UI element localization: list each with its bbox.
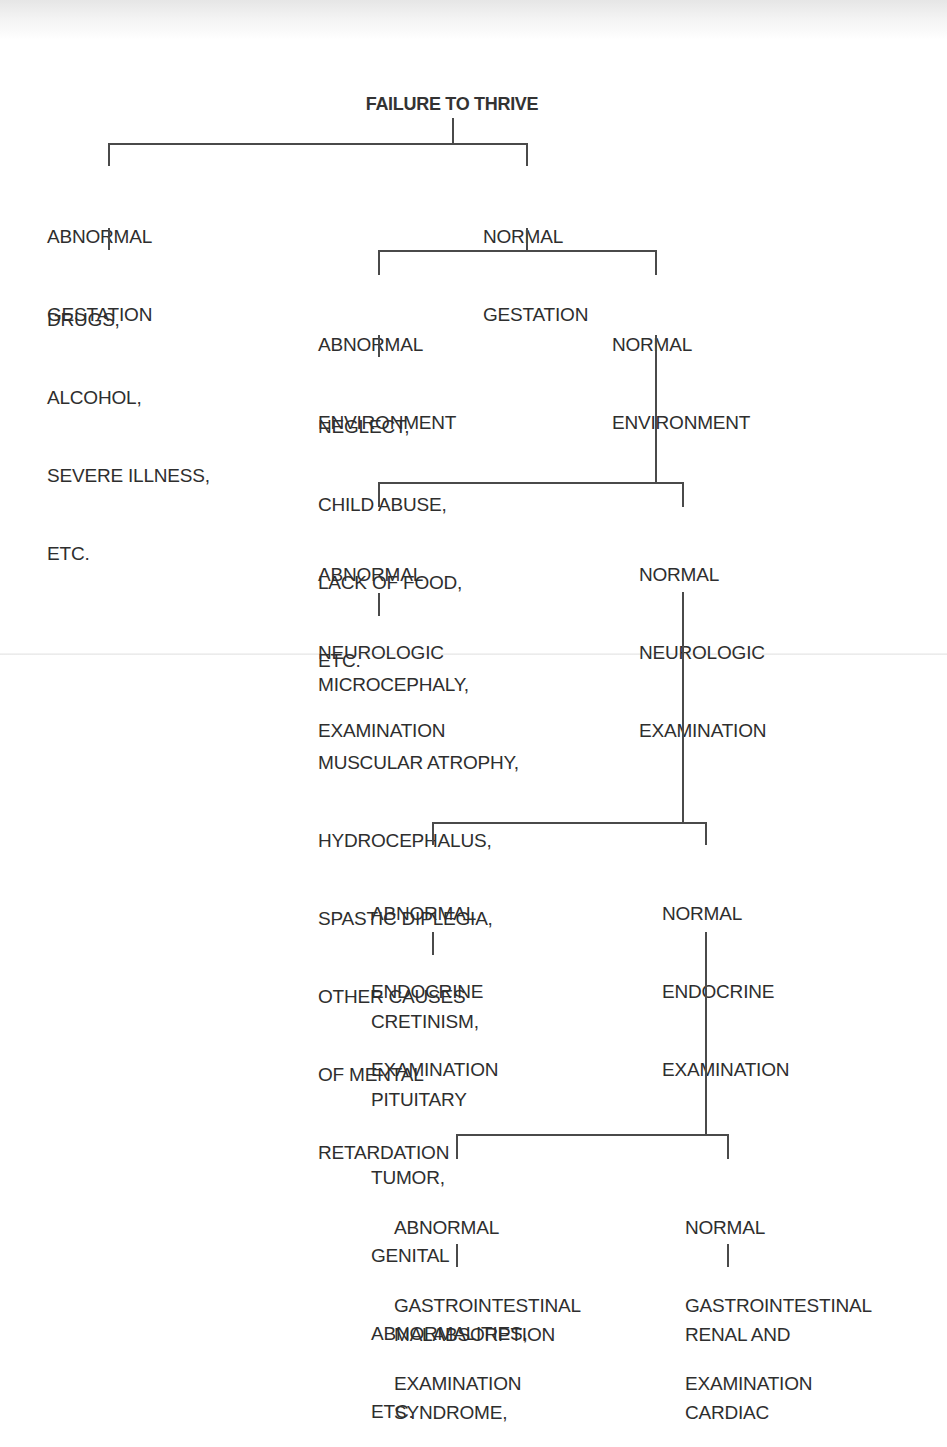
cause-line: MALABSORPTION xyxy=(394,1322,555,1348)
connector xyxy=(727,1134,729,1159)
connector xyxy=(378,482,380,507)
connector xyxy=(108,228,110,250)
node-normal-environment: NORMAL ENVIRONMENT xyxy=(612,280,750,462)
node-label-line: GESTATION xyxy=(483,302,588,328)
cause-line: ALCOHOL, xyxy=(47,385,210,411)
node-normal-endocrine: NORMAL ENDOCRINE EXAMINATION xyxy=(662,849,789,1109)
node-label-line: ENDOCRINE xyxy=(662,979,789,1005)
connector xyxy=(432,822,706,824)
connector xyxy=(655,335,657,482)
cause-line: CRETINISM, xyxy=(371,1009,528,1035)
node-label-line: ENVIRONMENT xyxy=(612,410,750,436)
cause-line: RENAL AND xyxy=(685,1322,790,1348)
causes-abnormal-gestation: DRUGS, ALCOHOL, SEVERE ILLNESS, ETC. xyxy=(47,255,210,593)
connector xyxy=(456,1134,728,1136)
connector xyxy=(456,1134,458,1159)
cause-line: CARDIAC xyxy=(685,1400,790,1426)
diagram-title: FAILURE TO THRIVE xyxy=(0,94,904,115)
cause-line: MUSCULAR ATROPHY, xyxy=(318,750,519,776)
connector xyxy=(456,1244,458,1267)
connector xyxy=(705,822,707,845)
cause-line: DRUGS, xyxy=(47,307,210,333)
scan-shading xyxy=(0,0,947,40)
cause-line: SYNDROME, xyxy=(394,1400,555,1426)
connector xyxy=(378,482,683,484)
connector xyxy=(432,822,434,845)
connector xyxy=(378,593,380,616)
connector xyxy=(526,228,528,250)
cause-line: PITUITARY xyxy=(371,1087,528,1113)
node-label-line: ABNORMAL xyxy=(394,1215,581,1241)
node-label-line: NORMAL xyxy=(639,562,766,588)
connector xyxy=(378,250,380,275)
node-label-line: ABNORMAL xyxy=(371,901,498,927)
node-label-line: ABNORMAL xyxy=(47,224,152,250)
connector xyxy=(378,250,656,252)
cause-line: SEVERE ILLNESS, xyxy=(47,463,210,489)
connector xyxy=(526,143,528,166)
causes-abnormal-gastrointestinal: MALABSORPTION SYNDROME, ESOPHAGEAL REFLU… xyxy=(394,1270,555,1447)
connector xyxy=(705,932,707,1134)
connector xyxy=(452,118,454,143)
node-normal-gestation: NORMAL GESTATION xyxy=(483,172,588,354)
node-label-line: EXAMINATION xyxy=(639,718,766,744)
connector xyxy=(378,335,380,357)
node-label-line: NORMAL xyxy=(685,1215,872,1241)
connector xyxy=(108,143,527,145)
cause-line: ETC. xyxy=(47,541,210,567)
connector xyxy=(432,932,434,955)
connector xyxy=(108,143,110,166)
node-label-line: NEUROLOGIC xyxy=(639,640,766,666)
node-label-line: NORMAL xyxy=(612,332,750,358)
node-label-line: NORMAL xyxy=(483,224,588,250)
connector xyxy=(682,482,684,507)
cause-line: NEGLECT, xyxy=(318,414,462,440)
connector xyxy=(655,250,657,275)
node-normal-neurologic: NORMAL NEUROLOGIC EXAMINATION xyxy=(639,510,766,770)
cause-line: MICROCEPHALY, xyxy=(318,672,519,698)
node-label-line: EXAMINATION xyxy=(662,1057,789,1083)
node-label-line: ABNORMAL xyxy=(318,562,445,588)
connector xyxy=(682,592,684,822)
causes-normal-gastrointestinal: RENAL AND CARDIAC DISEASE xyxy=(685,1270,790,1447)
node-label-line: NORMAL xyxy=(662,901,789,927)
connector xyxy=(727,1244,729,1267)
node-label-line: ABNORMAL xyxy=(318,332,456,358)
